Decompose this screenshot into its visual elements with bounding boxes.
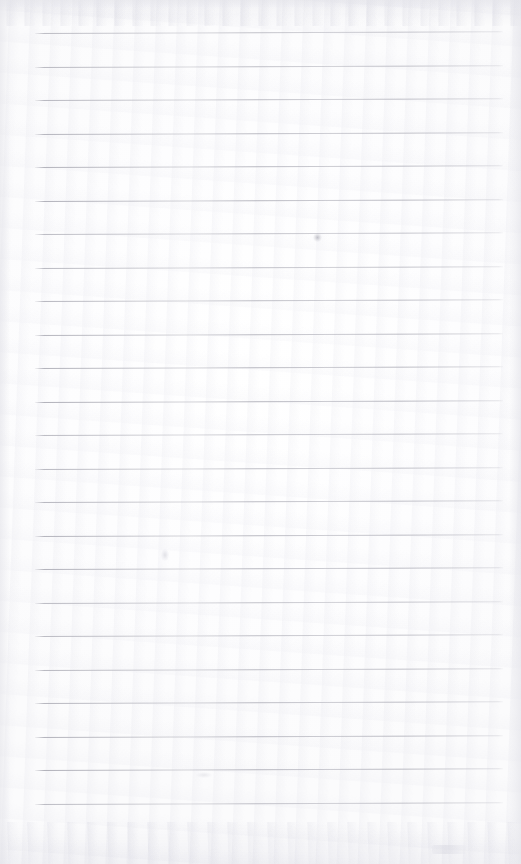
scanned-page: Blank Ruled Notebook Page [0, 0, 521, 864]
paper-surface [0, 0, 521, 864]
